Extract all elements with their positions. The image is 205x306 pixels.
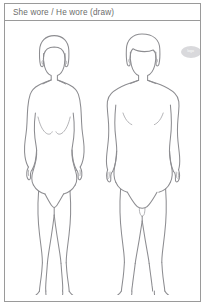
stamp-label: logo bbox=[188, 50, 195, 53]
figures-group bbox=[5, 21, 200, 302]
figure-male[interactable] bbox=[101, 27, 183, 295]
title-bar: She wore / He wore (draw) bbox=[5, 4, 200, 20]
drawing-canvas[interactable]: logo bbox=[5, 21, 200, 302]
female-body-outline-icon bbox=[17, 29, 91, 295]
male-body-outline-icon bbox=[101, 27, 183, 295]
stamp-oval-icon: logo bbox=[181, 46, 200, 58]
worksheet-page: She wore / He wore (draw) bbox=[0, 0, 205, 306]
page-title: She wore / He wore (draw) bbox=[13, 8, 114, 17]
corner-stamp: logo bbox=[181, 46, 200, 58]
figure-female[interactable] bbox=[17, 29, 91, 295]
